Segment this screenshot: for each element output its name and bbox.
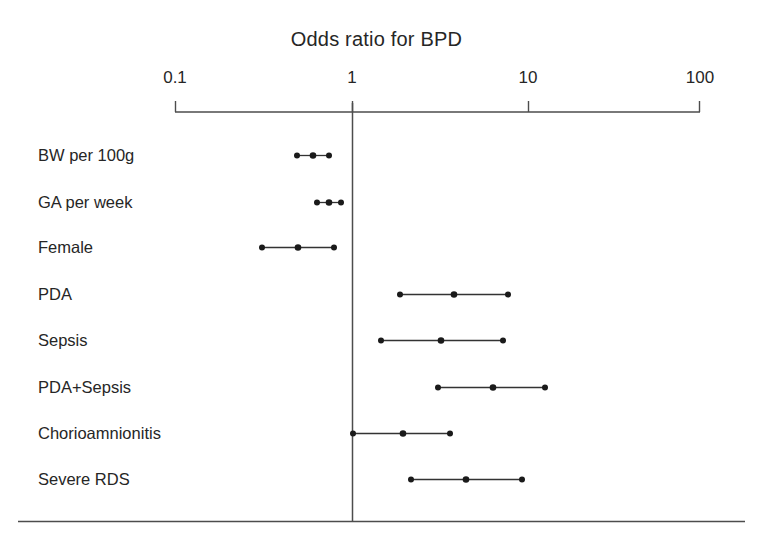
point-estimate-marker xyxy=(451,291,458,298)
x-axis xyxy=(175,101,700,112)
ci-lower-marker xyxy=(397,292,403,298)
ci-lower-marker xyxy=(435,385,441,391)
point-estimate-marker xyxy=(400,430,407,437)
forest-row-pda xyxy=(397,291,511,298)
ci-upper-marker xyxy=(542,385,548,391)
ci-upper-marker xyxy=(338,200,344,206)
forest-row-sepsis xyxy=(378,337,506,344)
ci-upper-marker xyxy=(500,338,506,344)
plot-canvas xyxy=(0,0,757,550)
ci-upper-marker xyxy=(519,477,525,483)
ci-lower-marker xyxy=(259,245,265,251)
ci-lower-marker xyxy=(294,153,300,159)
ci-lower-marker xyxy=(314,200,320,206)
point-estimate-marker xyxy=(295,244,302,251)
ci-upper-marker xyxy=(447,431,453,437)
point-estimate-marker xyxy=(438,337,445,344)
forest-plot-figure: Odds ratio for BPD 0.1 1 10 100 BW per 1… xyxy=(0,0,757,550)
ci-upper-marker xyxy=(331,245,337,251)
ci-upper-marker xyxy=(505,292,511,298)
forest-row-ga-per-week xyxy=(314,199,344,206)
ci-lower-marker xyxy=(378,338,384,344)
point-estimate-marker xyxy=(490,384,497,391)
point-estimate-marker xyxy=(463,476,470,483)
forest-row-severe-rds xyxy=(408,476,525,483)
point-estimate-marker xyxy=(310,152,317,159)
forest-rows xyxy=(259,152,548,483)
ci-upper-marker xyxy=(326,153,332,159)
forest-row-chorioamnionitis xyxy=(350,430,453,437)
forest-row-bw-per-100g xyxy=(294,152,332,159)
forest-row-pda-sepsis xyxy=(435,384,548,391)
ci-lower-marker xyxy=(408,477,414,483)
ci-lower-marker xyxy=(350,431,356,437)
point-estimate-marker xyxy=(326,199,333,206)
forest-row-female xyxy=(259,244,337,251)
